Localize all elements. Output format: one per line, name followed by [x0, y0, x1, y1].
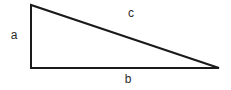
side-label-c: c [123, 7, 139, 19]
right-triangle-diagram: a b c [0, 0, 231, 90]
side-label-a: a [6, 29, 22, 41]
side-label-b: b [120, 73, 136, 85]
triangle-shape [0, 0, 231, 90]
